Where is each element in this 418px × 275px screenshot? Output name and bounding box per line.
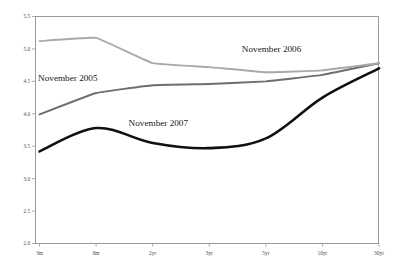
y-tick-label: 2.0 xyxy=(24,240,31,246)
y-tick-label: 4.5 xyxy=(24,78,31,84)
x-tick-label: 30yr xyxy=(374,250,384,256)
x-tick-label: 5yr xyxy=(262,250,269,256)
yield-curve-chart: 2.02.53.03.54.04.55.05.5 3m6m2yr3yr5yr10… xyxy=(0,0,418,275)
x-tick-label: 6m xyxy=(93,250,101,256)
y-tick-label: 5.0 xyxy=(24,46,31,52)
y-tick-label: 3.5 xyxy=(24,143,31,149)
x-tick-label: 3yr xyxy=(206,250,213,256)
y-tick-label: 3.0 xyxy=(24,176,31,182)
series-annotation-label: November 2007 xyxy=(129,118,189,128)
plot-background xyxy=(0,0,418,275)
series-annotation-label: November 2005 xyxy=(38,73,98,83)
x-tick-label: 10yr xyxy=(318,250,328,256)
y-tick-label: 4.0 xyxy=(24,111,31,117)
series-annotation-label: November 2006 xyxy=(242,44,302,54)
x-tick-label: 3m xyxy=(36,250,44,256)
chart-canvas: 2.02.53.03.54.04.55.05.5 3m6m2yr3yr5yr10… xyxy=(0,0,418,275)
y-tick-label: 2.5 xyxy=(24,208,31,214)
y-tick-label: 5.5 xyxy=(24,13,31,19)
x-tick-label: 2yr xyxy=(149,250,156,256)
